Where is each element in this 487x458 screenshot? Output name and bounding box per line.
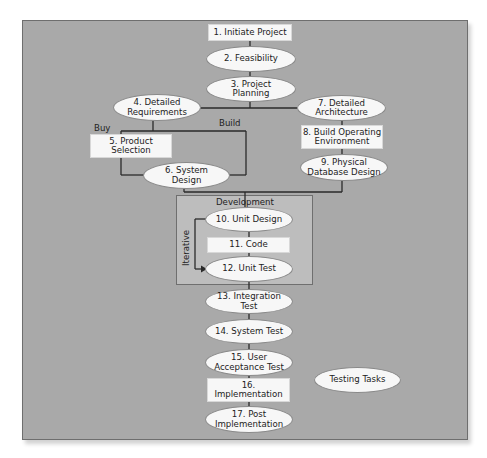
node-label: 17. Post Implementation <box>215 410 283 429</box>
node-physical-database-design: 9. Physical Database Design <box>300 154 388 181</box>
node-post-implementation: 17. Post Implementation <box>205 406 293 433</box>
node-project-planning: 3. Project Planning <box>206 76 296 102</box>
node-label: 1. Initiate Project <box>213 28 286 37</box>
development-label: Development <box>216 197 274 207</box>
node-label: 9. Physical Database Design <box>307 158 380 177</box>
node-label: 4. Detailed Requirements <box>127 98 187 117</box>
node-label: 10. Unit Design <box>216 215 282 224</box>
node-system-design: 6. System Design <box>143 162 230 189</box>
node-detailed-architecture: 7. Detailed Architecture <box>297 95 386 121</box>
branch-label-build: Build <box>219 118 241 128</box>
node-initiate-project: 1. Initiate Project <box>208 24 292 41</box>
node-label: 6. System Design <box>165 166 208 185</box>
node-unit-test: 12. Unit Test <box>205 256 293 282</box>
node-label: 8. Build Operating Environment <box>303 128 381 147</box>
node-product-selection: 5. Product Selection <box>90 134 172 158</box>
node-feasibility: 2. Feasibility <box>206 46 296 72</box>
node-implementation: 16. Implementation <box>207 378 290 402</box>
legend-label: Testing Tasks <box>330 375 386 384</box>
node-user-acceptance-test: 15. User Acceptance Test <box>205 349 293 376</box>
legend-testing-tasks: Testing Tasks <box>314 367 401 393</box>
node-label: 13. Integration Test <box>217 292 281 311</box>
node-system-test: 14. System Test <box>205 319 293 344</box>
node-code: 11. Code <box>207 237 290 253</box>
node-build-operating-environment: 8. Build Operating Environment <box>301 125 383 149</box>
iterative-label: Iterative <box>181 234 191 266</box>
node-integration-test: 13. Integration Test <box>205 289 293 314</box>
node-label: 5. Product Selection <box>109 137 153 156</box>
node-label: 7. Detailed Architecture <box>315 99 368 118</box>
node-label: 11. Code <box>229 240 267 249</box>
node-unit-design: 10. Unit Design <box>205 207 293 232</box>
node-detailed-requirements: 4. Detailed Requirements <box>113 94 201 121</box>
node-label: 15. User Acceptance Test <box>214 353 284 372</box>
node-label: 14. System Test <box>215 327 283 336</box>
node-label: 3. Project Planning <box>231 80 271 99</box>
branch-label-buy: Buy <box>94 123 110 133</box>
node-label: 12. Unit Test <box>222 264 276 273</box>
node-label: 16. Implementation <box>214 381 282 400</box>
node-label: 2. Feasibility <box>224 54 278 63</box>
